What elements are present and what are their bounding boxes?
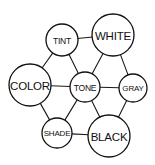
- edge-tint-white: [77, 37, 92, 38]
- node-black[interactable]: BLACK: [88, 115, 130, 157]
- node-layer: TINTWHITECOLORTONEGRAYSHADEBLACK: [9, 14, 147, 157]
- node-gray[interactable]: GRAY: [119, 74, 147, 102]
- node-label-shade: SHADE: [44, 129, 71, 138]
- node-label-color: COLOR: [10, 80, 50, 92]
- node-label-gray: GRAY: [122, 84, 144, 93]
- node-tone[interactable]: TONE: [70, 72, 100, 102]
- edge-white-gray: [120, 54, 128, 75]
- node-color[interactable]: COLOR: [9, 64, 51, 106]
- edge-shade-black: [71, 134, 88, 135]
- color-network-diagram: TINTWHITECOLORTONEGRAYSHADEBLACK: [0, 0, 155, 165]
- graph-svg: TINTWHITECOLORTONEGRAYSHADEBLACK: [0, 0, 155, 165]
- edge-tone-shade: [65, 99, 78, 120]
- node-label-tint: TINT: [53, 36, 71, 46]
- node-label-black: BLACK: [91, 131, 128, 143]
- edge-color-tone: [50, 86, 70, 87]
- edge-tint-color: [42, 53, 53, 69]
- edge-tint-tone: [69, 54, 79, 74]
- node-shade[interactable]: SHADE: [42, 118, 72, 148]
- node-label-white: WHITE: [95, 30, 132, 42]
- node-tint[interactable]: TINT: [46, 24, 78, 56]
- node-label-tone: TONE: [74, 83, 97, 93]
- edge-gray-black: [118, 100, 127, 118]
- edge-color-shade: [40, 103, 50, 120]
- edge-tone-black: [91, 100, 100, 118]
- node-white[interactable]: WHITE: [92, 14, 134, 56]
- edge-white-tone: [92, 53, 103, 74]
